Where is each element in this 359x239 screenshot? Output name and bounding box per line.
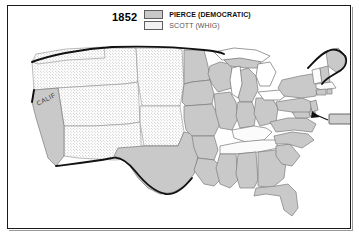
utah-territory: [58, 82, 140, 126]
state-iowa: [182, 80, 214, 106]
state-indiana: [236, 102, 256, 128]
map-container: CALIF: [8, 6, 350, 228]
state-kentucky: [232, 126, 272, 142]
state-missouri: [184, 104, 220, 136]
legend-swatch-scott: [144, 21, 163, 30]
nebraska-territory: [136, 48, 184, 106]
state-mississippi: [216, 154, 238, 188]
state-connecticut: [316, 89, 326, 95]
callout-arrow-head: [311, 111, 320, 118]
us-map-svg: CALIF: [8, 6, 350, 228]
election-map-figure: CALIF 1852 PIERCE (DEMOCRATIC) SCOTT (WH…: [0, 0, 359, 239]
legend-label-pierce: PIERCE (DEMOCRATIC): [169, 10, 251, 19]
indian-territory: [140, 106, 184, 146]
map-legend: 1852 PIERCE (DEMOCRATIC) SCOTT (WHIG): [112, 10, 251, 30]
state-new-york: [278, 74, 318, 98]
state-minnesota: [184, 50, 210, 84]
state-virginia: [270, 118, 316, 132]
legend-year: 1852: [112, 10, 137, 23]
legend-swatch-pierce: [144, 10, 163, 19]
state-pennsylvania: [276, 98, 312, 112]
state-florida: [254, 184, 298, 216]
delaware-callout-group: [311, 111, 350, 124]
callout-box: [329, 114, 350, 124]
state-rhode-island: [327, 89, 332, 94]
legend-entry-pierce: PIERCE (DEMOCRATIC): [144, 10, 251, 19]
lake-huron: [256, 62, 276, 86]
legend-entry-scott: SCOTT (WHIG): [144, 21, 251, 30]
state-alabama: [236, 152, 258, 188]
legend-label-scott: SCOTT (WHIG): [169, 21, 219, 30]
legend-entry-list: PIERCE (DEMOCRATIC) SCOTT (WHIG): [144, 10, 251, 30]
